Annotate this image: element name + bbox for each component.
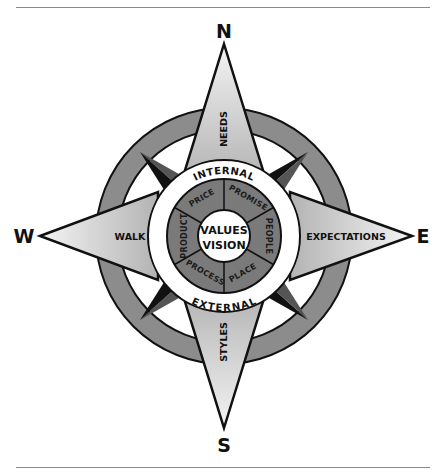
south-letter: S [217, 434, 231, 456]
segment-product: PRODUCT [180, 213, 189, 259]
walk-label: WALK [115, 231, 146, 242]
styles-label: STYLES [218, 322, 229, 362]
compass-diagram: N E S W NEEDS STYLES EXPECTATIONS WALK I… [0, 0, 446, 473]
needs-label: NEEDS [218, 111, 229, 147]
segment-people: PEOPLE [264, 218, 273, 254]
west-letter: W [14, 225, 35, 247]
east-letter: E [417, 225, 430, 247]
north-letter: N [216, 20, 232, 42]
center-values: VALUES [200, 224, 247, 237]
expectations-label: EXPECTATIONS [306, 231, 386, 242]
center-vision: VISION [202, 239, 245, 252]
